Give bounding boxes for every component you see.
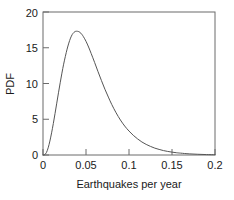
- y-tick-label: 5: [32, 113, 38, 125]
- x-tick-label: 0.15: [161, 159, 182, 171]
- x-tick-label: 0.1: [121, 159, 136, 171]
- y-tick-label: 10: [26, 78, 38, 90]
- y-axis-title: PDF: [4, 73, 16, 95]
- pdf-line-chart: 0 5 10 15 20 0 0.05 0.1 0.15 0.2 Earthqu…: [0, 0, 234, 200]
- x-tick-label: 0.2: [207, 159, 222, 171]
- x-tick-label: 0: [40, 159, 46, 171]
- chart-figure: 0 5 10 15 20 0 0.05 0.1 0.15 0.2 Earthqu…: [0, 0, 234, 200]
- y-tick-label: 15: [26, 42, 38, 54]
- chart-background: [0, 0, 234, 200]
- x-tick-label: 0.05: [75, 159, 96, 171]
- y-tick-label: 20: [26, 7, 38, 19]
- y-tick-label: 0: [32, 149, 38, 161]
- x-axis-title: Earthquakes per year: [76, 178, 182, 190]
